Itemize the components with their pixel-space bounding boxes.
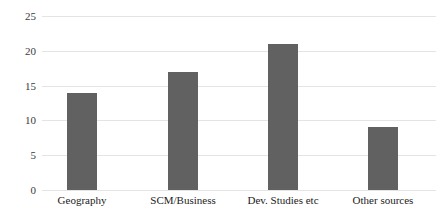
y-tick-label-20: 20: [25, 45, 36, 56]
x-tick-label-scm-business: SCM/Business: [150, 194, 215, 207]
x-tick-label-geography: Geography: [58, 194, 107, 207]
bar-dev-studies-etc: [268, 44, 298, 190]
y-axis-labels: 0 5 10 15 20 25: [0, 0, 42, 221]
y-tick-label-15: 15: [25, 80, 36, 91]
x-tick-label-dev-studies: Dev. Studies etc: [247, 194, 318, 207]
bar-geography: [67, 93, 97, 190]
y-tick-label-10: 10: [25, 115, 36, 126]
bars-layer: [42, 16, 436, 190]
y-tick-label-5: 5: [31, 150, 37, 161]
y-tick-label-0: 0: [31, 185, 37, 196]
bar-other-sources: [368, 127, 398, 190]
y-tick-label-25: 25: [25, 11, 36, 22]
gridline-25: [42, 190, 436, 191]
x-tick-label-other-sources: Other sources: [353, 194, 414, 207]
bar-scm-business: [168, 72, 198, 190]
bar-chart: 0 5 10 15 20 25 Geography SCM/Business D…: [0, 0, 446, 221]
x-axis-labels: Geography SCM/Business Dev. Studies etc …: [42, 192, 436, 216]
